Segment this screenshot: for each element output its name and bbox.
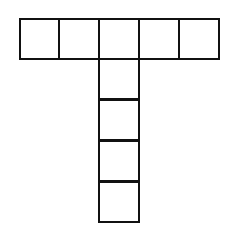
top-row-cell-5 (178, 18, 220, 60)
stem-cell-2 (98, 99, 140, 141)
stem-cell-4 (98, 181, 140, 223)
top-row-cell-4 (138, 18, 180, 60)
stem-cell-3 (98, 140, 140, 182)
top-row-cell-1 (19, 18, 61, 60)
top-row-cell-3 (98, 18, 140, 60)
top-row-cell-2 (58, 18, 100, 60)
stem-cell-1 (98, 58, 140, 100)
